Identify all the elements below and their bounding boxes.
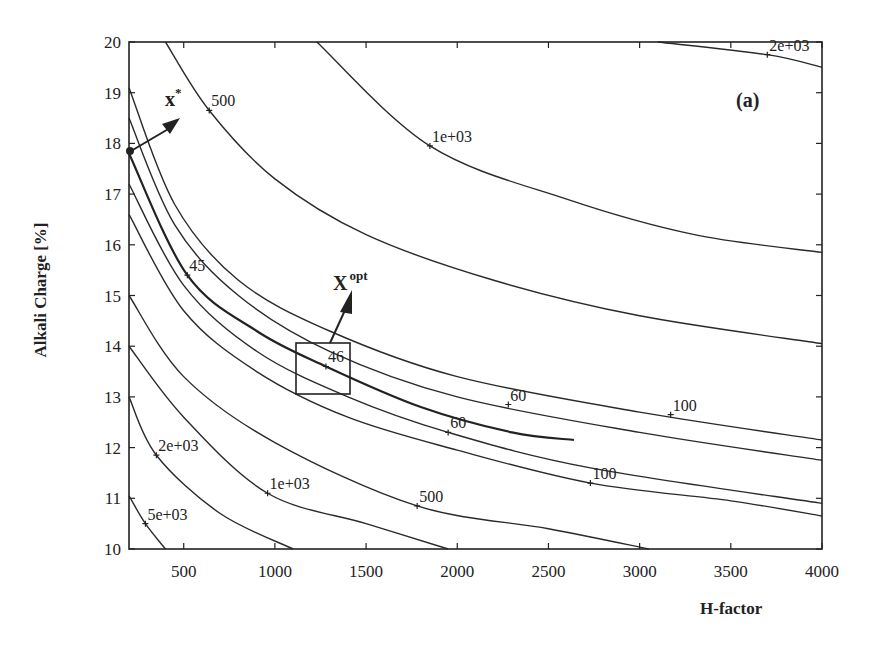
x-tick-label: 3000 xyxy=(623,562,657,581)
y-tick-label: 13 xyxy=(104,388,121,407)
y-tick-label: 11 xyxy=(105,489,121,508)
contour-labels: 5001e+032e+03454660601001002e+031e+03500… xyxy=(142,37,809,527)
x-tick-label: 2000 xyxy=(440,562,474,581)
x-tick-label: 4000 xyxy=(805,562,839,581)
y-tick-label: 17 xyxy=(104,185,122,204)
x-tick-label: 2500 xyxy=(531,562,565,581)
contour-label: 60 xyxy=(450,414,466,431)
contour-label: 100 xyxy=(673,397,697,414)
panel-label: (a) xyxy=(736,89,759,112)
y-axis-title: Alkali Charge [%] xyxy=(31,222,50,357)
y-tick-label: 12 xyxy=(104,439,121,458)
y-tick-label: 18 xyxy=(104,134,121,153)
contour-chart: 5001e+032e+03454660601001002e+031e+03500… xyxy=(0,0,880,649)
contour-label: 5e+03 xyxy=(147,506,187,523)
x-axis-title: H-factor xyxy=(700,599,763,618)
contour-label: 2e+03 xyxy=(769,37,809,54)
contour-line xyxy=(129,214,822,516)
contour-label: 1e+03 xyxy=(270,475,310,492)
y-tick-label: 19 xyxy=(104,84,121,103)
x-tick-label: 1500 xyxy=(349,562,383,581)
contour-label: 500 xyxy=(211,92,235,109)
contour-line xyxy=(129,296,649,550)
contour-label: 100 xyxy=(592,465,616,482)
contour-line xyxy=(317,42,822,252)
y-tick-label: 10 xyxy=(104,540,121,559)
axis-ticks: 5001000150020002500300035004000101112131… xyxy=(104,33,839,581)
plot-frame xyxy=(129,42,822,549)
xopt-label: Xopt xyxy=(333,268,368,294)
contour-label: 60 xyxy=(510,387,526,404)
contour-label: 1e+03 xyxy=(432,128,472,145)
contour-label: 500 xyxy=(419,488,443,505)
y-tick-label: 15 xyxy=(104,287,121,306)
y-tick-label: 20 xyxy=(104,33,121,52)
y-tick-label: 16 xyxy=(104,236,121,255)
y-tick-label: 14 xyxy=(104,337,122,356)
contour-line xyxy=(129,88,822,440)
x-tick-label: 3500 xyxy=(714,562,748,581)
xstar-label: x* xyxy=(165,85,182,110)
contour-curves xyxy=(129,42,822,549)
contour-label: 45 xyxy=(189,257,205,274)
x-tick-label: 1000 xyxy=(258,562,292,581)
contour-label: 46 xyxy=(328,348,344,365)
x-tick-label: 500 xyxy=(171,562,197,581)
contour-line xyxy=(129,397,293,549)
contour-label: 2e+03 xyxy=(158,437,198,454)
